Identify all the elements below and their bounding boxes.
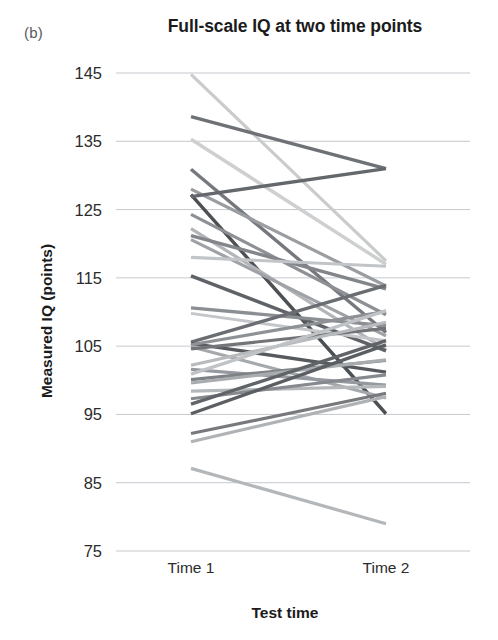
- y-tick-label: 135: [74, 132, 102, 150]
- series-line: [191, 117, 386, 169]
- y-tick-label: 95: [84, 405, 102, 423]
- series-line: [191, 74, 386, 260]
- x-tick-labels-group: Time 1Time 2: [168, 559, 410, 576]
- y-tick-label: 115: [76, 269, 102, 287]
- x-tick-label: Time 2: [363, 559, 410, 576]
- y-tick-label: 145: [74, 64, 102, 82]
- plot-area: 758595105115125135145 Time 1Time 2: [0, 0, 498, 640]
- figure-panel: (b) Full-scale IQ at two time points Mea…: [0, 0, 498, 640]
- y-tick-label: 105: [74, 337, 102, 355]
- series-line: [191, 285, 386, 342]
- series-line: [191, 393, 386, 433]
- y-tick-label: 75: [84, 542, 102, 560]
- y-tick-label: 85: [84, 474, 102, 492]
- y-tick-label: 125: [74, 201, 102, 219]
- x-tick-label: Time 1: [168, 559, 215, 576]
- series-line: [191, 468, 386, 523]
- y-tick-labels-group: 758595105115125135145: [74, 64, 102, 560]
- series-line: [191, 169, 386, 197]
